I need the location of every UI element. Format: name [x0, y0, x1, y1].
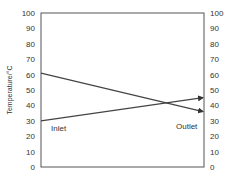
- secondary-y-tick-label: 40: [210, 101, 219, 110]
- y-tick-label: 20: [26, 132, 35, 141]
- secondary-y-tick-label: 10: [210, 148, 219, 157]
- secondary-y-tick-label: 80: [210, 40, 219, 49]
- y-axis-label: Temperature/°C: [6, 65, 14, 114]
- y-tick-label: 30: [26, 117, 35, 126]
- series-lines: [41, 73, 203, 121]
- plot-frame: [41, 13, 204, 167]
- series-line: [41, 73, 203, 112]
- series-line: [41, 98, 203, 121]
- inlet-label: Inlet: [51, 124, 67, 133]
- secondary-y-tick-label: 0: [210, 163, 215, 172]
- y-tick-label: 80: [26, 40, 35, 49]
- outlet-label: Outlet: [176, 122, 198, 131]
- left-y-axis-ticks: 0102030405060708090100: [22, 9, 36, 172]
- y-tick-label: 100: [22, 9, 36, 18]
- secondary-y-tick-label: 60: [210, 71, 219, 80]
- y-tick-label: 0: [31, 163, 36, 172]
- secondary-y-tick-label: 70: [210, 55, 219, 64]
- secondary-y-tick-label: 50: [210, 86, 219, 95]
- secondary-y-tick-label: 30: [210, 117, 219, 126]
- y-tick-label: 50: [26, 86, 35, 95]
- y-tick-label: 90: [26, 24, 35, 33]
- secondary-y-tick-label: 100: [210, 9, 224, 18]
- y-tick-label: 70: [26, 55, 35, 64]
- secondary-y-tick-label: 20: [210, 132, 219, 141]
- y-tick-label: 40: [26, 101, 35, 110]
- y-tick-label: 60: [26, 71, 35, 80]
- secondary-y-tick-label: 90: [210, 24, 219, 33]
- temperature-chart: 0102030405060708090100 01020304050607080…: [0, 0, 228, 179]
- right-y-axis-ticks: 0102030405060708090100: [210, 9, 224, 172]
- y-tick-label: 10: [26, 148, 35, 157]
